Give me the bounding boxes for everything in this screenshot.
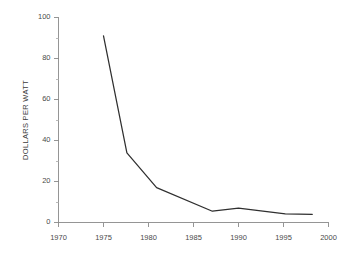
x-tick-label: 2000 [320,233,337,242]
x-tick-label: 1985 [185,233,202,242]
y-axis-tick-labels: 020406080100 [38,12,51,226]
x-axis-major-ticks [59,223,329,228]
line-chart: 020406080100 197019751980198519901995200… [0,0,363,263]
x-tick-label: 1970 [50,233,67,242]
data-series-group [104,36,313,214]
y-axis-group: 020406080100 [38,12,59,226]
series-line [104,36,313,214]
y-tick-label: 60 [42,94,50,103]
y-tick-label: 40 [42,135,50,144]
y-axis-title: DOLLARS PER WATT [21,80,30,160]
x-tick-label: 1980 [140,233,157,242]
y-tick-label: 80 [42,53,50,62]
y-tick-label: 100 [38,12,51,21]
x-axis-group: 1970197519801985199019952000 [50,223,337,243]
y-tick-label: 20 [42,176,50,185]
x-tick-label: 1995 [275,233,292,242]
chart-canvas: 020406080100 197019751980198519901995200… [0,0,363,263]
y-tick-label: 0 [46,217,50,226]
x-tick-label: 1990 [230,233,247,242]
x-tick-label: 1975 [95,233,112,242]
x-axis-tick-labels: 1970197519801985199019952000 [50,233,337,242]
